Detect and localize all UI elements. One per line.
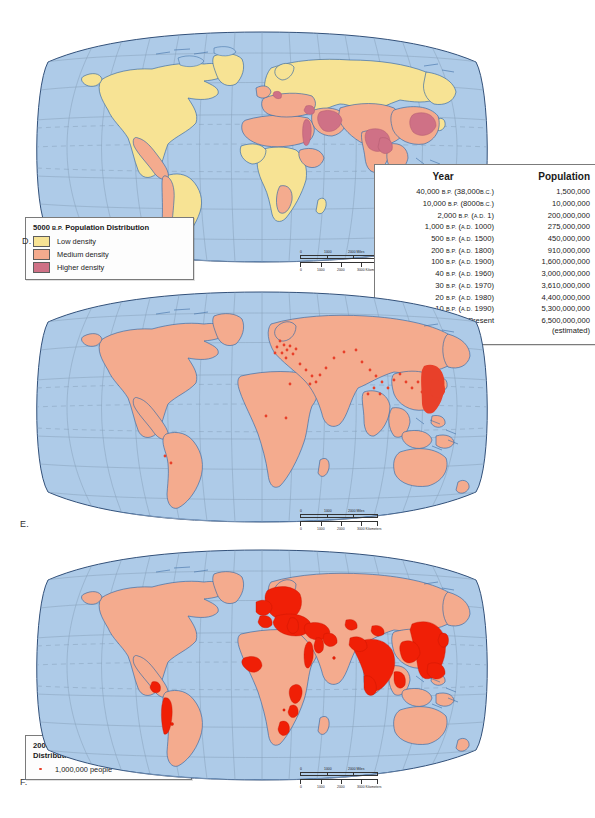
legend-item-medium-density: Medium density xyxy=(33,249,185,260)
table-row: 2,000 B.P. (A.D. 1)200,000,000 xyxy=(383,209,590,221)
legend-label-low-density: Low density xyxy=(57,238,96,245)
cell-population: 910,000,000 xyxy=(503,244,590,256)
scale-km-labels-e: 0 1000 2000 3000 Kilometers xyxy=(300,526,378,532)
column-header-population: Population xyxy=(503,171,590,186)
cell-year: 10,000 B.P. (8000B.C.) xyxy=(383,198,503,210)
cell-year: 200 B.P. (A.D. 1800) xyxy=(383,244,503,256)
cell-population: 275,000,000 xyxy=(503,221,590,233)
table-header-row: Year Population xyxy=(383,171,590,186)
world-map-500-bp xyxy=(28,546,496,784)
cell-population: 3,000,000,000 xyxy=(503,268,590,280)
cell-year: 40,000 B.P. (38,000B.C.) xyxy=(383,186,503,198)
legend-item-low-density: Low density xyxy=(33,236,185,247)
legend-title-d: 5000 B.P. Population Distribution xyxy=(33,223,185,233)
panel-letter-e: E. xyxy=(20,519,29,529)
world-map-2000-bp xyxy=(28,288,496,526)
cell-population: 450,000,000 xyxy=(503,233,590,245)
table-row: 200 B.P. (A.D. 1800)910,000,000 xyxy=(383,244,590,256)
scale-bar-d: 0 1000 2000 Miles 0 1000 2000 3000 Kilom… xyxy=(300,249,378,273)
cell-year: 500 B.P. (A.D. 1500) xyxy=(383,233,503,245)
legend-label-higher-density: Higher density xyxy=(57,264,104,271)
cell-year: 2,000 B.P. (A.D. 1) xyxy=(383,209,503,221)
scale-bar-f: 0 1000 2000 Miles 0 1000 2000 3000 Kilom… xyxy=(300,766,378,790)
scale-miles-bar-e xyxy=(300,514,378,518)
scale-miles-bar-f xyxy=(300,772,378,776)
cell-year: 1,000 B.P. (A.D. 1000) xyxy=(383,221,503,233)
cell-population: 1,600,000,000 xyxy=(503,256,590,268)
legend-item-higher-density: Higher density xyxy=(33,262,185,273)
cell-year: 40 B.P. (A.D. 1960) xyxy=(383,268,503,280)
table-row: 500 B.P. (A.D. 1500)450,000,000 xyxy=(383,233,590,245)
scale-bar-e: 0 1000 2000 Miles 0 1000 2000 3000 Kilom… xyxy=(300,508,378,532)
panel-letter-d: D. xyxy=(22,236,31,246)
table-row: 100 B.P. (A.D. 1900)1,600,000,000 xyxy=(383,256,590,268)
column-header-year: Year xyxy=(383,171,503,186)
swatch-low-density xyxy=(33,236,50,247)
table-row: 1,000 B.P. (A.D. 1000)275,000,000 xyxy=(383,221,590,233)
table-row: 40 B.P. (A.D. 1960)3,000,000,000 xyxy=(383,268,590,280)
scale-km-labels: 0 1000 2000 3000 Kilometers xyxy=(300,267,378,273)
swatch-medium-density xyxy=(33,249,50,260)
cell-year: 100 B.P. (A.D. 1900) xyxy=(383,256,503,268)
panel-e-2000-bp-map: 2000 B.P. = A.D. 1 Population Distributi… xyxy=(0,288,595,540)
legend-5000-bp: 5000 B.P. Population Distribution Low de… xyxy=(25,217,194,280)
cell-population: 10,000,000 xyxy=(503,198,590,210)
cell-population: 200,000,000 xyxy=(503,209,590,221)
panel-f-500-bp-map: 500 B.P. Distribution, 450,000,000 Peopl… xyxy=(0,546,595,798)
swatch-higher-density xyxy=(33,262,50,273)
panel-letter-f: F. xyxy=(20,777,27,787)
cell-population: 1,500,000 xyxy=(503,186,590,198)
legend-label-medium-density: Medium density xyxy=(57,251,109,258)
scale-miles-bar xyxy=(300,255,378,259)
scale-km-labels-f: 0 1000 2000 3000 Kilometers xyxy=(300,784,378,790)
table-row: 40,000 B.P. (38,000B.C.)1,500,000 xyxy=(383,186,590,198)
table-row: 10,000 B.P. (8000B.C.)10,000,000 xyxy=(383,198,590,210)
